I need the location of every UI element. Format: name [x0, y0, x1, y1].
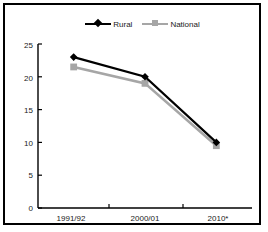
rural-line: [74, 57, 217, 142]
national-marker-1: [142, 80, 149, 87]
national-marker-0: [70, 64, 77, 71]
series-rural: [70, 53, 220, 146]
axis-lines: [38, 44, 252, 208]
chart-figure-frame: Rural National 25 20 15 10 5 0 1991/92 2…: [3, 3, 261, 225]
chart-plot-area: Rural National 25 20 15 10 5 0 1991/92 2…: [5, 5, 259, 223]
chart-canvas: [5, 5, 263, 227]
rural-marker-0: [70, 53, 78, 61]
